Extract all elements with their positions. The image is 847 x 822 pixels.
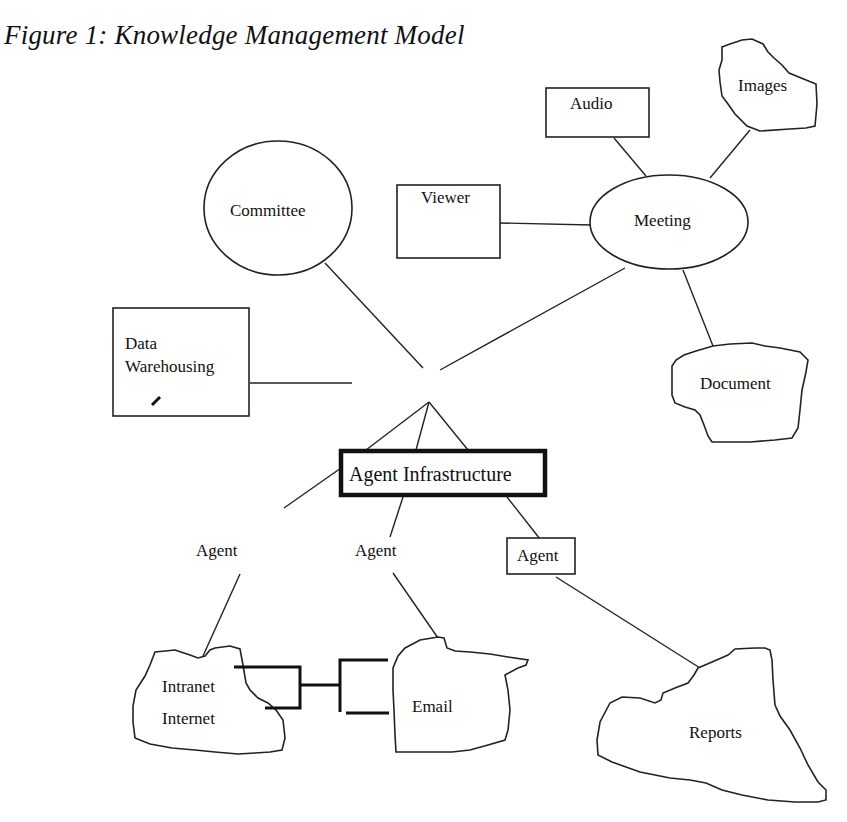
node-meeting: Meeting bbox=[590, 175, 748, 269]
connector-agent-reports bbox=[556, 577, 700, 668]
committee-label: Committee bbox=[230, 201, 306, 220]
connector-infra-agent-left bbox=[284, 468, 341, 508]
data-warehousing-label-2: Warehousing bbox=[125, 357, 215, 376]
connector-meeting-document bbox=[683, 270, 713, 346]
document-label: Document bbox=[700, 374, 771, 393]
connector-agent-intranet bbox=[203, 574, 240, 656]
node-viewer: Viewer bbox=[397, 185, 500, 258]
connector-audio-meeting bbox=[614, 138, 646, 176]
meeting-label: Meeting bbox=[634, 211, 691, 230]
connector-hub-infra-left bbox=[366, 402, 429, 450]
connector-meeting-hub bbox=[440, 268, 625, 370]
node-email: Email bbox=[393, 637, 528, 752]
connector-viewer-meeting bbox=[500, 223, 592, 225]
audio-label: Audio bbox=[570, 94, 613, 113]
data-warehousing-label-1: Data bbox=[125, 334, 158, 353]
node-agent-right: Agent bbox=[507, 538, 575, 574]
agent-right-label: Agent bbox=[517, 546, 559, 565]
node-agent-infrastructure: Agent Infrastructure bbox=[341, 451, 545, 495]
internet-label: Internet bbox=[162, 709, 215, 728]
node-reports: Reports bbox=[597, 648, 826, 802]
node-data-warehousing: Data Warehousing bbox=[113, 308, 249, 416]
agent-left-label: Agent bbox=[196, 541, 238, 560]
node-intranet-internet: Intranet Internet bbox=[133, 646, 285, 754]
agent-infrastructure-label: Agent Infrastructure bbox=[349, 463, 512, 486]
reports-label: Reports bbox=[689, 723, 742, 742]
connector-images-meeting bbox=[710, 130, 750, 178]
connector-agent-email bbox=[393, 573, 438, 638]
images-label: Images bbox=[738, 76, 787, 95]
intranet-label: Intranet bbox=[162, 677, 215, 696]
node-images: Images bbox=[719, 39, 817, 131]
connector-committee-hub bbox=[325, 263, 423, 368]
connector-infra-agent-mid bbox=[390, 497, 403, 537]
node-audio: Audio bbox=[546, 88, 649, 137]
node-committee: Committee bbox=[204, 141, 352, 275]
viewer-label: Viewer bbox=[421, 188, 470, 207]
agent-middle-label: Agent bbox=[355, 541, 397, 560]
node-document: Document bbox=[672, 343, 808, 442]
connector-hub-infra-right bbox=[429, 402, 468, 450]
email-label: Email bbox=[412, 697, 453, 716]
knowledge-management-diagram: Audio Images Viewer Meeting Committee Da… bbox=[0, 0, 847, 822]
connector-hub-infra-mid bbox=[416, 402, 429, 450]
connector-infra-agent-right bbox=[507, 497, 540, 539]
